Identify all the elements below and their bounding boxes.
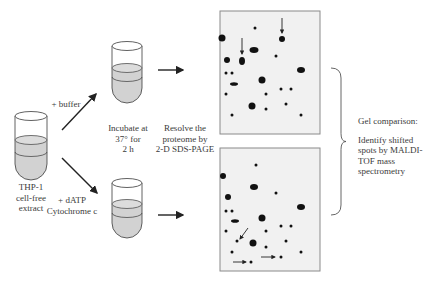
gel-spot bbox=[225, 194, 231, 200]
gel-spot bbox=[290, 88, 293, 91]
gel-spot bbox=[279, 36, 285, 42]
gel-spot bbox=[231, 219, 239, 223]
incubate-label-line2: 37° for bbox=[101, 134, 155, 145]
spacer bbox=[358, 127, 423, 135]
gel-spot bbox=[250, 240, 257, 247]
control-gel bbox=[219, 11, 321, 134]
identify-line3: TOF mass bbox=[358, 156, 423, 167]
gel-spot bbox=[225, 72, 228, 75]
gel-spot bbox=[230, 82, 238, 86]
comparison-brace bbox=[331, 68, 346, 215]
gel-spot bbox=[249, 103, 256, 110]
gel-spot bbox=[224, 57, 230, 63]
resolve-label-line3: 2-D SDS-PAGE bbox=[155, 144, 215, 155]
gel-spot bbox=[259, 215, 266, 222]
gel-spot bbox=[265, 246, 268, 249]
gel-spot bbox=[285, 240, 288, 243]
identify-line1: Identify shifted bbox=[358, 135, 423, 146]
gels-group bbox=[219, 11, 321, 271]
extract-tube bbox=[15, 112, 47, 181]
buffer-tube bbox=[112, 42, 142, 104]
gel-spot bbox=[300, 114, 303, 117]
gel-spot bbox=[225, 93, 228, 96]
gel-spot bbox=[285, 103, 288, 106]
buffer-label-text: + buffer bbox=[46, 99, 86, 110]
gel-spot bbox=[254, 27, 257, 30]
gel-spot bbox=[297, 67, 305, 73]
gel-spot bbox=[231, 210, 234, 213]
gel-spot bbox=[297, 204, 305, 210]
datp-arrow-icon bbox=[62, 158, 97, 193]
gel-spot bbox=[250, 184, 258, 190]
gel-spot bbox=[300, 251, 303, 254]
gel-spot bbox=[280, 225, 283, 228]
gel-spot bbox=[275, 55, 278, 58]
gel-comparison-label: Gel comparison: Identify shifted spots b… bbox=[358, 116, 423, 177]
datp-label-line1: + dATP bbox=[36, 195, 108, 206]
buffer-label: + buffer bbox=[46, 99, 86, 110]
incubate-label-line3: 2 h bbox=[101, 144, 155, 155]
incubate-label-line1: Incubate at bbox=[101, 123, 155, 134]
datp-label: + dATP Cytochrome c bbox=[36, 195, 108, 216]
gel-spot bbox=[280, 88, 283, 91]
gel-spot bbox=[231, 114, 234, 117]
gel-comparison-title: Gel comparison: bbox=[358, 116, 423, 127]
gel-spot bbox=[225, 230, 228, 233]
gel-spot bbox=[259, 77, 266, 84]
gel-spot bbox=[265, 93, 268, 96]
gel-spot bbox=[280, 256, 283, 259]
gel-spot bbox=[225, 210, 228, 213]
identify-line4: spectrometry bbox=[358, 166, 423, 177]
gel-spot bbox=[236, 240, 239, 243]
datp-label-line2-text: Cytochrome c bbox=[47, 206, 98, 216]
gel-spot bbox=[250, 261, 253, 264]
resolve-label-line1: Resolve the bbox=[155, 123, 215, 134]
datp-label-line2: Cytochrome c bbox=[36, 206, 108, 217]
gel-spot bbox=[220, 173, 226, 179]
gel-spot bbox=[275, 192, 278, 195]
datp-tube bbox=[112, 179, 142, 239]
gel-spot bbox=[219, 35, 226, 42]
gel-spot bbox=[231, 72, 234, 75]
gel-spot bbox=[265, 108, 268, 111]
resolve-label: Resolve the proteome by 2-D SDS-PAGE bbox=[155, 123, 215, 155]
resolve-label-line2: proteome by bbox=[155, 134, 215, 145]
extract-label-line1: THP-1 bbox=[8, 182, 54, 193]
incubate-label: Incubate at 37° for 2 h bbox=[101, 123, 155, 155]
gel-spot bbox=[290, 225, 293, 228]
gel-spot bbox=[255, 164, 258, 167]
treated-gel bbox=[220, 148, 320, 271]
gel-spot bbox=[239, 57, 245, 65]
identify-line2: spots by MALDI- bbox=[358, 145, 423, 156]
curly-brace-icon bbox=[331, 68, 346, 215]
gel-spot bbox=[250, 47, 259, 53]
gel-spot bbox=[231, 251, 234, 254]
gel-spot bbox=[265, 230, 268, 233]
